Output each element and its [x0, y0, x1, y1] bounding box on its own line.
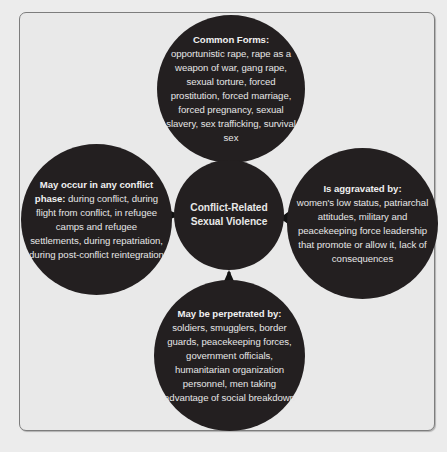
- node-center-topic: Conflict-Related Sexual Violence: [174, 160, 284, 270]
- node-body: soldiers, smugglers, border guards, peac…: [164, 322, 295, 403]
- center-title-line-2: Sexual Violence: [190, 215, 267, 229]
- node-heading: Is aggravated by:: [296, 182, 429, 196]
- node-heading: Common Forms:: [163, 33, 299, 47]
- center-title-line-1: Conflict-Related: [190, 201, 267, 215]
- node-body: women's low status, patriarchal attitude…: [296, 196, 429, 266]
- node-aggravated-by: Is aggravated by: women's low status, pa…: [287, 148, 438, 299]
- node-perpetrated-by: May be perpetrated by: soldiers, smuggle…: [154, 280, 305, 431]
- node-body: opportunistic rape, rape as a weapon of …: [163, 47, 299, 145]
- node-conflict-phase: May occur in any conflict phase: during …: [21, 144, 172, 295]
- diagram-stage: Common Forms: opportunistic rape, rape a…: [0, 0, 447, 452]
- node-common-forms: Common Forms: opportunistic rape, rape a…: [157, 15, 305, 163]
- node-heading: May be perpetrated by:: [178, 308, 282, 319]
